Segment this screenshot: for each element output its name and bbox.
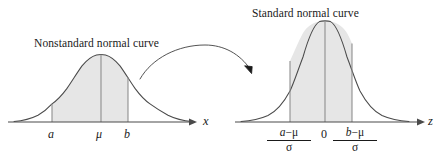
- right-axis-arrowhead: [417, 119, 425, 126]
- figure-canvas: [0, 0, 434, 156]
- left-shaded-area: [52, 55, 128, 122]
- right-panel-group: [235, 21, 425, 126]
- left-axis-arrowhead: [189, 119, 197, 126]
- connector-arc: [140, 45, 250, 79]
- connector-arrowhead-icon: [245, 66, 253, 74]
- right-shaded-area: [290, 21, 352, 122]
- normal-curve-standardization-figure: Nonstandard normal curve a μ b x Standar…: [0, 0, 434, 156]
- left-panel-group: [8, 55, 197, 126]
- connector-group: [140, 45, 252, 79]
